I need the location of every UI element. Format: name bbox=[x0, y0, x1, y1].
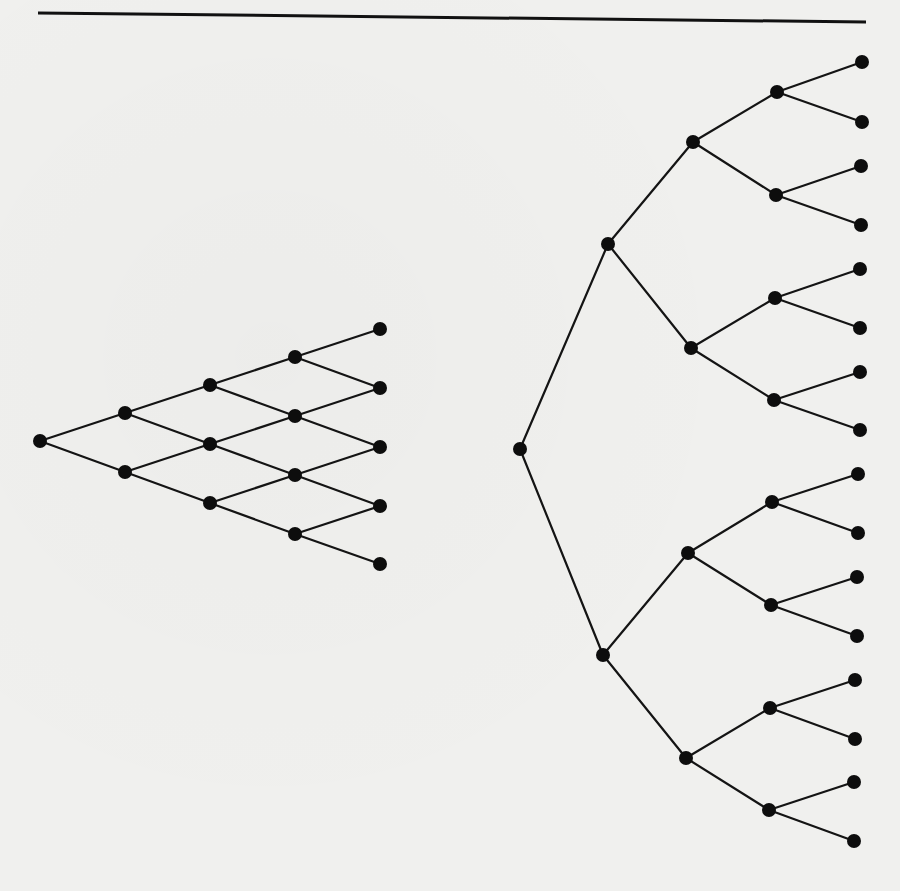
node-L4_1 bbox=[373, 381, 387, 395]
edge bbox=[125, 472, 210, 503]
node-T3e bbox=[765, 495, 779, 509]
edge bbox=[771, 577, 857, 605]
node-T3g bbox=[763, 701, 777, 715]
edge bbox=[777, 62, 862, 92]
figure-canvas bbox=[0, 0, 900, 891]
edge bbox=[520, 449, 603, 655]
edge bbox=[210, 503, 295, 534]
lattice-nodes bbox=[33, 322, 387, 571]
node-T3b bbox=[769, 188, 783, 202]
node-T1b bbox=[596, 648, 610, 662]
node-T4_06 bbox=[853, 321, 867, 335]
edge bbox=[691, 298, 775, 348]
edge bbox=[693, 92, 777, 142]
edge bbox=[295, 447, 380, 475]
node-T4_03 bbox=[854, 159, 868, 173]
edge bbox=[775, 298, 860, 328]
node-L3_3 bbox=[288, 527, 302, 541]
node-T4_08 bbox=[853, 423, 867, 437]
edge bbox=[603, 655, 686, 758]
edge bbox=[772, 474, 858, 502]
edge bbox=[771, 605, 857, 636]
node-T2c bbox=[681, 546, 695, 560]
node-T0 bbox=[513, 442, 527, 456]
scanned-page bbox=[0, 0, 900, 891]
node-T2b bbox=[684, 341, 698, 355]
node-L4_3 bbox=[373, 499, 387, 513]
node-T4_12 bbox=[850, 629, 864, 643]
binary-tree-diagram bbox=[513, 55, 869, 848]
recombining-lattice-diagram bbox=[33, 322, 387, 571]
edge bbox=[125, 385, 210, 413]
node-T4_13 bbox=[848, 673, 862, 687]
edge bbox=[769, 782, 854, 810]
edge bbox=[688, 502, 772, 553]
node-L4_4 bbox=[373, 557, 387, 571]
edge bbox=[295, 357, 380, 388]
node-T4_02 bbox=[855, 115, 869, 129]
edge bbox=[295, 475, 380, 506]
edge bbox=[40, 413, 125, 441]
edge bbox=[777, 92, 862, 122]
edge bbox=[774, 400, 860, 430]
edge bbox=[603, 553, 688, 655]
edge bbox=[688, 553, 771, 605]
node-L2_2 bbox=[203, 496, 217, 510]
edge bbox=[210, 416, 295, 444]
edge bbox=[295, 329, 380, 357]
edge bbox=[295, 534, 380, 564]
edge bbox=[295, 388, 380, 416]
tree-nodes bbox=[513, 55, 869, 848]
edge bbox=[776, 195, 861, 225]
node-T3d bbox=[767, 393, 781, 407]
node-T4_10 bbox=[851, 526, 865, 540]
node-L4_0 bbox=[373, 322, 387, 336]
edge bbox=[295, 506, 380, 534]
node-T3h bbox=[762, 803, 776, 817]
edge bbox=[295, 416, 380, 447]
node-L2_0 bbox=[203, 378, 217, 392]
node-T4_04 bbox=[854, 218, 868, 232]
node-L2_1 bbox=[203, 437, 217, 451]
edge bbox=[772, 502, 858, 533]
edge bbox=[125, 444, 210, 472]
node-T4_01 bbox=[855, 55, 869, 69]
edge bbox=[608, 244, 691, 348]
edge bbox=[686, 708, 770, 758]
node-T1a bbox=[601, 237, 615, 251]
node-L3_2 bbox=[288, 468, 302, 482]
edge bbox=[686, 758, 769, 810]
edge bbox=[210, 475, 295, 503]
edge bbox=[775, 269, 860, 298]
edge bbox=[520, 244, 608, 449]
edge bbox=[210, 444, 295, 475]
node-T4_15 bbox=[847, 775, 861, 789]
edge bbox=[210, 385, 295, 416]
edge bbox=[693, 142, 776, 195]
node-T3c bbox=[768, 291, 782, 305]
node-T4_07 bbox=[853, 365, 867, 379]
node-T2d bbox=[679, 751, 693, 765]
edge bbox=[774, 372, 860, 400]
edge bbox=[608, 142, 693, 244]
node-T4_11 bbox=[850, 570, 864, 584]
edge bbox=[691, 348, 774, 400]
edge bbox=[125, 413, 210, 444]
edge bbox=[210, 357, 295, 385]
edge bbox=[770, 708, 855, 739]
edge bbox=[40, 441, 125, 472]
edge bbox=[769, 810, 854, 841]
node-T3a bbox=[770, 85, 784, 99]
node-T4_14 bbox=[848, 732, 862, 746]
node-L3_1 bbox=[288, 409, 302, 423]
node-L0_0 bbox=[33, 434, 47, 448]
node-T4_16 bbox=[847, 834, 861, 848]
tree-edges bbox=[520, 62, 862, 841]
node-T2a bbox=[686, 135, 700, 149]
node-T4_05 bbox=[853, 262, 867, 276]
node-L3_0 bbox=[288, 350, 302, 364]
node-L1_1 bbox=[118, 465, 132, 479]
edge bbox=[776, 166, 861, 195]
node-T3f bbox=[764, 598, 778, 612]
edge bbox=[770, 680, 855, 708]
